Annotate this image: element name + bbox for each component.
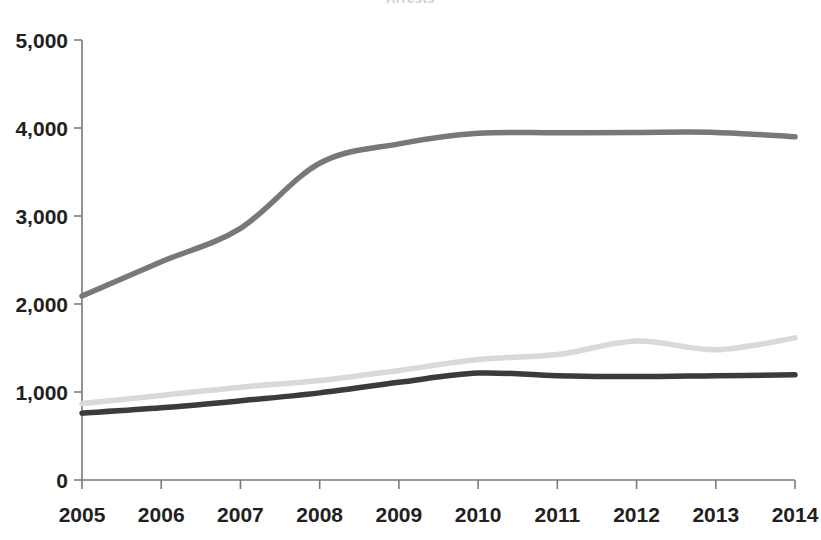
y-tick-label: 5,000 [15,29,68,52]
y-tick-label: 0 [56,469,68,492]
x-tick-label: 2012 [613,503,660,526]
y-axis-tick-labels: 01,0002,0003,0004,0005,000 [15,29,68,492]
series-line-series-1-medium-gray [82,132,795,296]
x-axis-tick-labels: 2005200620072008200920102011201220132014 [59,503,819,526]
y-tick-label: 2,000 [15,293,68,316]
x-tick-label: 2005 [59,503,106,526]
chart-plot-area: 01,0002,0003,0004,0005,000 2005200620072… [0,0,821,540]
x-tick-label: 2014 [772,503,819,526]
x-tick-label: 2009 [376,503,423,526]
y-tick-label: 1,000 [15,381,68,404]
x-tick-label: 2010 [455,503,502,526]
x-tick-label: 2011 [535,503,581,526]
x-tick-label: 2008 [296,503,343,526]
tick-marks [74,40,795,489]
x-tick-label: 2007 [217,503,264,526]
data-series-group [82,132,795,413]
series-line-series-2-light-gray [82,338,795,404]
y-tick-label: 4,000 [15,117,68,140]
x-tick-label: 2013 [692,503,739,526]
y-tick-label: 3,000 [15,205,68,228]
x-tick-label: 2006 [138,503,185,526]
axis-lines [82,40,795,480]
line-chart: Arrests 01,0002,0003,0004,0005,000 20052… [0,0,821,540]
